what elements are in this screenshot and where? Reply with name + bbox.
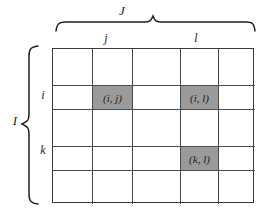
matrix-cell (219, 49, 255, 86)
matrix-cell (53, 147, 93, 171)
matrix-cell (53, 171, 93, 204)
matrix-cell (219, 147, 255, 171)
left-brace-icon (18, 44, 40, 210)
matrix-cell (93, 147, 133, 171)
matrix-cell-highlighted: (i, j) (93, 86, 133, 110)
matrix-index-diagram: J j l I i k (i, j)(i, l)(k, l) (0, 0, 268, 214)
matrix-cell (53, 86, 93, 110)
matrix-cell (93, 49, 133, 86)
matrix-grid: (i, j)(i, l)(k, l) (52, 48, 254, 203)
matrix-cell (219, 110, 255, 147)
matrix-cell-highlighted: (k, l) (181, 147, 219, 171)
row-label-k: k (36, 144, 50, 156)
matrix-cell (133, 171, 181, 204)
column-label-l: l (186, 32, 206, 44)
matrix-cell (53, 110, 93, 147)
matrix-cell (133, 110, 181, 147)
matrix-cell (133, 86, 181, 110)
row-label-i: i (36, 89, 50, 101)
matrix-cell (181, 171, 219, 204)
matrix-cell (219, 171, 255, 204)
matrix-cell (181, 110, 219, 147)
matrix-cell (53, 49, 93, 86)
column-label-j: j (96, 32, 116, 44)
top-brace-icon (0, 14, 268, 36)
matrix-cell (133, 49, 181, 86)
matrix-cell (93, 171, 133, 204)
matrix-cell-highlighted: (i, l) (181, 86, 219, 110)
matrix-cell (133, 147, 181, 171)
matrix-cell (93, 110, 133, 147)
matrix-cell (219, 86, 255, 110)
matrix-cell (181, 49, 219, 86)
